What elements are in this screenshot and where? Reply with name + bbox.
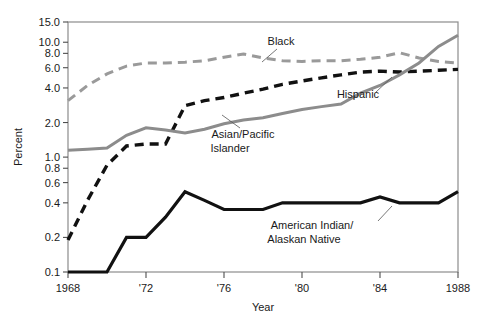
series-line-american-indian-alaskan-native (68, 192, 458, 272)
y-tick-label: 15.0 (39, 16, 60, 28)
y-axis-title: Percent (12, 128, 24, 166)
series-label: Asian/Pacific (212, 128, 275, 140)
line-chart: 15.010.08.06.04.02.01.00.80.60.40.20.119… (0, 0, 479, 320)
y-tick-label: 8.0 (45, 47, 60, 59)
x-tick-label: 1988 (446, 282, 470, 294)
series-label: American Indian/ (271, 219, 354, 231)
x-tick-label: 1968 (56, 282, 80, 294)
series-label-line2: Alaskan Native (267, 233, 340, 245)
y-tick-label: 0.4 (45, 197, 60, 209)
x-tick-label: '84 (373, 282, 387, 294)
series-label-line2: Islander (210, 142, 249, 154)
y-tick-label: 2.0 (45, 117, 60, 129)
annotation-leader-line (378, 206, 392, 221)
series-line-hispanic (68, 69, 458, 240)
y-tick-label: 4.0 (45, 82, 60, 94)
y-tick-label: 0.8 (45, 162, 60, 174)
series-line-black (68, 53, 458, 101)
y-tick-label: 6.0 (45, 62, 60, 74)
series-annotation-american-indian-alaskan-native: American Indian/Alaskan Native (267, 206, 392, 245)
series-annotation-hispanic: Hispanic (337, 77, 392, 100)
y-tick-label: 0.1 (45, 266, 60, 278)
chart-container: 15.010.08.06.04.02.01.00.80.60.40.20.119… (0, 0, 479, 320)
annotation-leader-line (376, 77, 392, 92)
x-tick-label: '80 (295, 282, 309, 294)
y-tick-label: 0.6 (45, 177, 60, 189)
series-label: Black (268, 35, 295, 47)
series-annotation-black: Black (262, 35, 295, 62)
x-tick-label: '76 (217, 282, 231, 294)
series-label: Hispanic (337, 88, 380, 100)
y-tick-label: 0.2 (45, 231, 60, 243)
x-tick-label: '72 (139, 282, 153, 294)
x-axis-title: Year (252, 301, 275, 313)
